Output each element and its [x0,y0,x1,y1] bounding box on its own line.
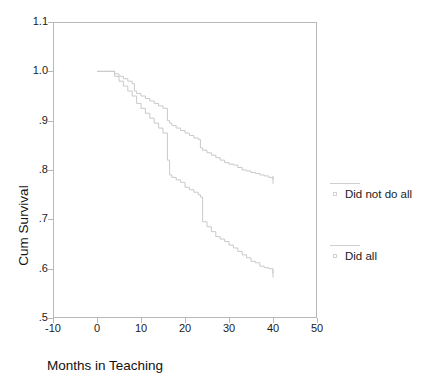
survival-curves [53,22,317,318]
x-axis-tick-label: 50 [311,322,323,334]
y-axis-tick-label: .9 [39,115,48,126]
y-axis-tick-label: 1.0 [33,65,48,76]
x-axis-tick-label: 30 [223,322,235,334]
survival-curve-did-not-do-all [97,71,273,180]
x-axis-tick-label: 10 [135,322,147,334]
x-axis-tick-labels: -1001020304050 [0,322,435,338]
y-axis-tick-label: .8 [39,164,48,175]
y-axis-title: Cum Survival [16,181,31,271]
legend-square-marker-icon [333,254,337,258]
x-axis-tick-label: 20 [179,322,191,334]
x-axis-tick-label: -10 [45,322,61,334]
legend-label: Did all [345,250,377,262]
x-axis-title: Months in Teaching [47,358,163,373]
survival-curve-did-all [97,71,273,273]
x-axis-tick-label: 0 [94,322,100,334]
survival-chart-page: .5.6.7.8.91.01.1 -1001020304050 Cum Surv… [0,0,435,385]
legend-line-icon [330,245,360,246]
y-axis-tick-label: 1.1 [33,16,48,27]
legend-label: Did not do all [345,188,412,200]
x-axis-tick-label: 40 [267,322,279,334]
y-axis-tick-label: .6 [39,263,48,274]
legend-square-marker-icon [333,192,337,196]
y-axis-tick-label: .7 [39,213,48,224]
legend-line-icon [330,183,360,184]
